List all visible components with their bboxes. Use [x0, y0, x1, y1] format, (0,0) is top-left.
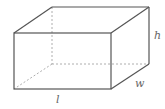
height-label: h — [154, 29, 161, 42]
rectangular-prism-diagram: h w l — [0, 0, 165, 109]
length-label: l — [56, 93, 60, 106]
width-label: w — [135, 77, 145, 90]
visible-edges — [14, 7, 149, 89]
